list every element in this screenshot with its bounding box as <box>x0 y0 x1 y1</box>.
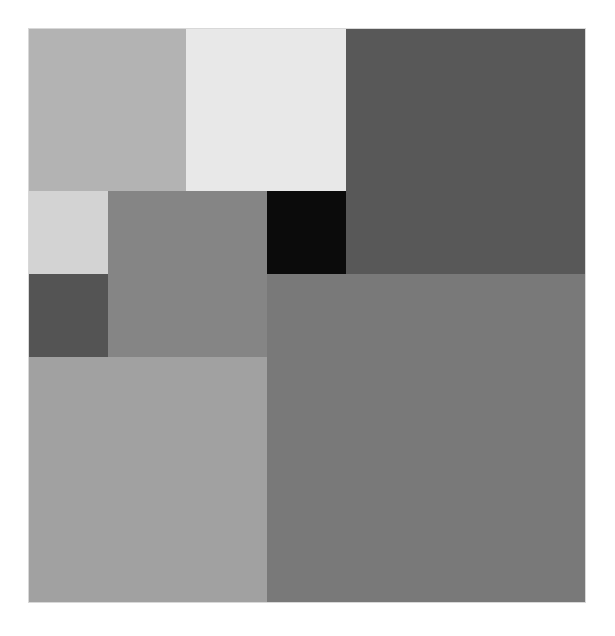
tile-middle-gray <box>108 191 267 357</box>
composition-canvas <box>0 0 615 636</box>
tile-black <box>267 191 346 274</box>
tile-small-light <box>29 191 108 274</box>
tile-top-right <box>346 29 585 274</box>
tile-small-dark <box>29 274 108 357</box>
tile-bottom-right <box>267 274 585 602</box>
tile-bottom-left <box>29 357 267 602</box>
tile-top-middle <box>186 29 346 191</box>
tile-top-left <box>29 29 186 191</box>
